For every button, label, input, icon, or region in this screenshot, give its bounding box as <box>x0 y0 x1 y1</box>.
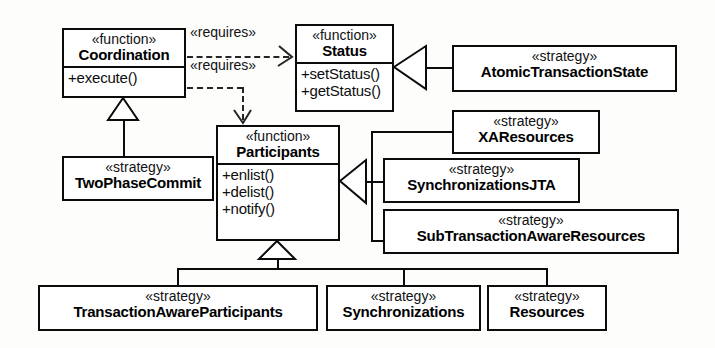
class-name-two-phase-commit: TwoPhaseCommit <box>70 175 206 191</box>
dependency-label-requires-participants: «requires» <box>190 57 256 73</box>
class-header-xaresources: «strategy» XAResources <box>454 112 598 148</box>
class-name-synchronizations: Synchronizations <box>334 304 473 320</box>
class-header-transaction-aware-participants: «strategy» TransactionAwareParticipants <box>40 287 316 323</box>
class-name-subtransaction-aware-resources: SubTransactionAwareResources <box>391 228 671 244</box>
class-box-coordination[interactable]: «function» Coordination +execute() <box>62 28 186 98</box>
class-header-status: «function» Status <box>297 26 392 62</box>
class-stereotype-atomic-transaction-state: «strategy» <box>460 49 669 64</box>
class-box-resources[interactable]: «strategy» Resources <box>487 285 607 331</box>
class-stereotype-coordination: «function» <box>70 32 178 47</box>
class-header-subtransaction-aware-resources: «strategy» SubTransactionAwareResources <box>385 211 677 247</box>
class-stereotype-resources: «strategy» <box>495 289 599 304</box>
class-header-coordination: «function» Coordination <box>64 30 184 66</box>
class-stereotype-synchronizations-jta: «strategy» <box>391 162 572 177</box>
operation-enlist: +enlist() <box>222 166 334 183</box>
class-name-atomic-transaction-state: AtomicTransactionState <box>460 64 669 80</box>
generalization-triangle-coordination <box>108 98 138 120</box>
class-name-synchronizations-jta: SynchronizationsJTA <box>391 177 572 193</box>
class-box-atomic-transaction-state[interactable]: «strategy» AtomicTransactionState <box>452 45 677 92</box>
operation-notify: +notify() <box>222 200 334 217</box>
class-header-participants: «function» Participants <box>218 127 338 163</box>
class-header-atomic-transaction-state: «strategy» AtomicTransactionState <box>454 47 675 83</box>
generalization-triangle-participants-right <box>340 160 366 203</box>
class-name-status: Status <box>303 43 386 59</box>
class-header-two-phase-commit: «strategy» TwoPhaseCommit <box>64 158 212 194</box>
class-box-xaresources[interactable]: «strategy» XAResources <box>452 110 600 154</box>
class-name-transaction-aware-participants: TransactionAwareParticipants <box>46 304 310 320</box>
class-header-synchronizations: «strategy» Synchronizations <box>328 287 479 323</box>
class-box-transaction-aware-participants[interactable]: «strategy» TransactionAwareParticipants <box>38 285 318 331</box>
class-name-coordination: Coordination <box>70 47 178 63</box>
class-header-resources: «strategy» Resources <box>489 287 605 323</box>
generalization-triangle-status <box>394 46 426 89</box>
class-name-participants: Participants <box>224 144 332 160</box>
operation-delist: +delist() <box>222 183 334 200</box>
class-header-synchronizations-jta: «strategy» SynchronizationsJTA <box>385 160 578 196</box>
class-box-status[interactable]: «function» Status +setStatus() +getStatu… <box>295 24 394 112</box>
class-box-subtransaction-aware-resources[interactable]: «strategy» SubTransactionAwareResources <box>383 209 679 254</box>
class-box-two-phase-commit[interactable]: «strategy» TwoPhaseCommit <box>62 156 214 201</box>
dependency-label-requires-status: «requires» <box>190 24 256 40</box>
class-stereotype-subtransaction-aware-resources: «strategy» <box>391 213 671 228</box>
generalization-triangle-participants-bottom <box>259 241 295 259</box>
class-stereotype-synchronizations: «strategy» <box>334 289 473 304</box>
class-stereotype-xaresources: «strategy» <box>460 114 592 129</box>
class-name-resources: Resources <box>495 304 599 320</box>
operation-get-status: +getStatus() <box>301 82 388 99</box>
class-box-synchronizations-jta[interactable]: «strategy» SynchronizationsJTA <box>383 158 580 203</box>
class-box-participants[interactable]: «function» Participants +enlist() +delis… <box>216 125 340 241</box>
dependency-arrowhead-status <box>278 46 292 66</box>
class-stereotype-two-phase-commit: «strategy» <box>70 160 206 175</box>
uml-diagram-canvas: «requires» «requires» «function» Coordin… <box>0 0 715 348</box>
class-operations-coordination: +execute() <box>64 66 184 88</box>
dependency-arrowhead-participants <box>234 110 251 123</box>
class-operations-participants: +enlist() +delist() +notify() <box>218 163 338 220</box>
class-stereotype-status: «function» <box>303 28 386 43</box>
class-stereotype-participants: «function» <box>224 129 332 144</box>
class-name-xaresources: XAResources <box>460 129 592 145</box>
operation-execute: +execute() <box>68 69 180 86</box>
class-stereotype-transaction-aware-participants: «strategy» <box>46 289 310 304</box>
class-operations-status: +setStatus() +getStatus() <box>297 62 392 102</box>
operation-set-status: +setStatus() <box>301 65 388 82</box>
class-box-synchronizations[interactable]: «strategy» Synchronizations <box>326 285 481 331</box>
